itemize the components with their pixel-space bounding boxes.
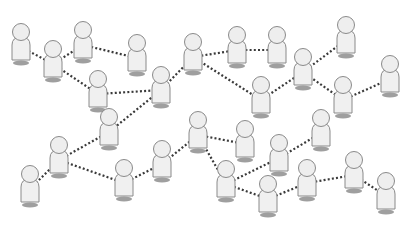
person-head: [218, 161, 235, 178]
person-icon: [189, 112, 207, 154]
person-icon: [381, 56, 399, 98]
person-icon: [334, 77, 352, 119]
person-icon: [259, 176, 277, 218]
person-head: [101, 109, 118, 126]
person-icon: [217, 161, 235, 203]
person-icon: [153, 141, 171, 183]
person-nodes: [12, 17, 399, 218]
shadow: [335, 113, 351, 118]
people-network-diagram: [0, 0, 411, 227]
person-head: [271, 135, 288, 152]
shadow: [22, 202, 38, 207]
shadow: [190, 148, 206, 153]
shadow: [237, 157, 253, 162]
shadow: [101, 145, 117, 150]
shadow: [253, 113, 269, 118]
shadow: [153, 103, 169, 108]
person-head: [229, 27, 246, 44]
person-icon: [100, 109, 118, 151]
shadow: [271, 171, 287, 176]
person-head: [129, 35, 146, 52]
person-head: [313, 110, 330, 127]
shadow: [260, 212, 276, 217]
person-head: [13, 24, 30, 41]
shadow: [346, 188, 362, 193]
person-head: [154, 141, 171, 158]
person-head: [338, 17, 355, 34]
person-head: [22, 166, 39, 183]
shadow: [45, 77, 61, 82]
shadow: [313, 146, 329, 151]
person-icon: [337, 17, 355, 59]
person-head: [153, 67, 170, 84]
person-icon: [50, 137, 68, 179]
shadow: [338, 53, 354, 58]
person-head: [51, 137, 68, 154]
person-icon: [12, 24, 30, 66]
person-icon: [345, 152, 363, 194]
connection-line: [193, 57, 261, 100]
person-icon: [294, 49, 312, 91]
person-head: [116, 160, 133, 177]
person-icon: [44, 41, 62, 83]
shadow: [75, 58, 91, 63]
person-icon: [236, 121, 254, 163]
person-head: [335, 77, 352, 94]
person-head: [295, 49, 312, 66]
person-head: [260, 176, 277, 193]
person-icon: [115, 160, 133, 202]
person-head: [90, 71, 107, 88]
person-icon: [377, 173, 395, 215]
shadow: [295, 85, 311, 90]
person-head: [382, 56, 399, 73]
person-icon: [152, 67, 170, 109]
person-head: [45, 41, 62, 58]
person-icon: [298, 160, 316, 202]
person-head: [269, 27, 286, 44]
person-head: [299, 160, 316, 177]
person-icon: [74, 22, 92, 64]
person-icon: [128, 35, 146, 77]
connection-line: [59, 160, 124, 183]
person-head: [237, 121, 254, 138]
shadow: [154, 177, 170, 182]
person-icon: [268, 27, 286, 69]
shadow: [378, 209, 394, 214]
shadow: [269, 63, 285, 68]
person-head: [190, 112, 207, 129]
person-icon: [270, 135, 288, 177]
shadow: [116, 196, 132, 201]
shadow: [185, 70, 201, 75]
person-head: [75, 22, 92, 39]
shadow: [129, 71, 145, 76]
person-icon: [21, 166, 39, 208]
person-icon: [89, 71, 107, 113]
shadow: [218, 197, 234, 202]
person-head: [185, 34, 202, 51]
person-icon: [228, 27, 246, 69]
shadow: [382, 92, 398, 97]
person-icon: [252, 77, 270, 119]
shadow: [51, 173, 67, 178]
person-head: [253, 77, 270, 94]
person-head: [378, 173, 395, 190]
person-icon: [184, 34, 202, 76]
shadow: [229, 63, 245, 68]
shadow: [299, 196, 315, 201]
person-icon: [312, 110, 330, 152]
person-head: [346, 152, 363, 169]
shadow: [13, 60, 29, 65]
